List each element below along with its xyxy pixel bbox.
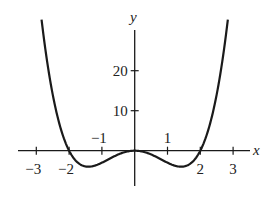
tick-labels: −3−2−11231020 bbox=[25, 63, 237, 177]
x-tick-label: 1 bbox=[164, 130, 172, 146]
x-tick-label: −2 bbox=[58, 161, 74, 177]
y-tick-label: 10 bbox=[113, 103, 128, 119]
y-axis-label: y bbox=[128, 9, 137, 25]
axes bbox=[18, 30, 250, 186]
x-tick-label: 2 bbox=[197, 161, 205, 177]
y-tick-label: 20 bbox=[113, 63, 128, 79]
x-tick-label: −3 bbox=[25, 161, 41, 177]
x-axis-label: x bbox=[252, 142, 260, 158]
function-plot: −3−2−11231020 x y bbox=[0, 0, 268, 198]
x-tick-label: 3 bbox=[229, 161, 237, 177]
x-tick-label: −1 bbox=[91, 130, 107, 146]
